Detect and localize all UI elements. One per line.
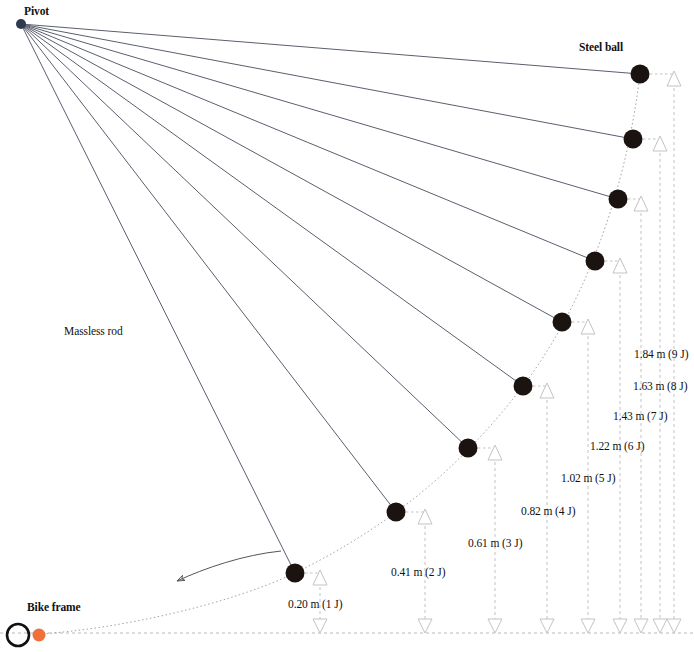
dimension-arrowhead-top-1 [313,570,327,585]
steel-ball-4[interactable] [514,377,533,396]
steel-ball-7[interactable] [609,190,628,209]
steel-ball-1[interactable] [286,564,305,583]
dimension-arrowhead-bottom-1 [313,619,327,633]
bike-frame-label: Bike frame [27,601,81,613]
steel-ball-label: Steel ball [579,41,623,53]
massless-rod-2 [21,24,396,512]
dimension-arrowhead-top-9 [667,71,681,86]
dimension-arrowhead-bottom-7 [634,619,648,633]
steel-ball-group [286,65,650,583]
swing-arc [39,74,640,634]
bike-frame-ring-icon [7,624,29,646]
massless-rod-1 [21,24,295,573]
dimension-arrowhead-top-4 [540,383,554,398]
swing-direction-arrow [177,551,281,581]
dimension-arrowhead-top-8 [653,136,667,151]
dimension-leader-group [295,74,676,573]
bike-frame-hub-icon [33,629,46,642]
dimension-arrowhead-bottom-9 [667,619,681,633]
massless-rod-label: Massless rod [64,325,123,337]
diagram-canvas: Pivot Steel ball Massless rod Bike frame… [0,0,694,652]
steel-ball-5[interactable] [553,313,572,332]
height-label-8: 1.63 m (8 J) [633,380,687,392]
height-label-6: 1.22 m (6 J) [590,440,644,452]
massless-rod-8 [21,24,633,139]
pivot-label: Pivot [24,5,49,17]
steel-ball-8[interactable] [624,130,643,149]
steel-ball-2[interactable] [387,503,406,522]
dimension-arrowhead-top-5 [581,319,595,334]
massless-rod-7 [21,24,618,199]
steel-ball-3[interactable] [459,439,478,458]
dimension-arrowhead-top-3 [488,445,502,460]
height-label-4: 0.82 m (4 J) [521,505,575,517]
height-label-3: 0.61 m (3 J) [468,537,522,549]
pivot-point-icon [16,19,26,29]
dimension-arrowhead-bottom-5 [581,619,595,633]
dimension-arrowhead-top-2 [418,509,432,524]
dimension-arrowhead-bottom-2 [418,619,432,633]
height-label-2: 0.41 m (2 J) [391,566,445,578]
steel-ball-6[interactable] [586,252,605,271]
height-label-7: 1.43 m (7 J) [613,410,667,422]
dimension-arrowhead-bottom-3 [488,619,502,633]
massless-rod-9 [21,24,640,74]
dimension-arrowhead-top-6 [613,258,627,273]
massless-rod-3 [21,24,468,448]
height-label-1: 0.20 m (1 J) [288,598,342,610]
height-label-5: 1.02 m (5 J) [561,472,615,484]
dimension-arrowhead-bottom-4 [540,619,554,633]
massless-rod-5 [21,24,562,322]
dimension-arrowhead-bottom-8 [653,619,667,633]
massless-rod-6 [21,24,595,261]
dimension-arrowhead-top-7 [634,196,648,211]
dimension-arrowhead-bottom-6 [613,619,627,633]
height-label-9: 1.84 m (9 J) [634,348,688,360]
steel-ball-9[interactable] [631,65,650,84]
